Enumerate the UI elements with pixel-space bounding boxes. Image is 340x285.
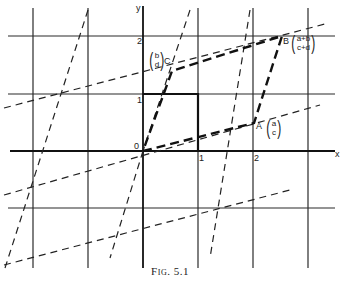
- vector-b: (a+bc+d): [290, 33, 317, 53]
- grid-lines: [8, 8, 335, 268]
- y-tick-1: 1: [137, 96, 142, 105]
- vector-a: (ac): [265, 118, 283, 138]
- vector-b-bottom: c+d: [297, 43, 311, 52]
- x-tick-2: 2: [254, 154, 259, 163]
- y-axis-label: y: [136, 4, 141, 13]
- figure-caption: Fig. 5.1: [0, 265, 340, 277]
- x-tick-1: 1: [199, 154, 204, 163]
- point-a-label: A: [256, 122, 262, 131]
- x-axis-label: x: [335, 150, 340, 159]
- vector-b-top: a+b: [297, 34, 311, 43]
- caption-prefix: Fig.: [151, 265, 170, 277]
- vector-c-top: b: [155, 51, 159, 60]
- caption-number: 5.1: [174, 265, 189, 277]
- vector-c-bottom: d: [155, 60, 159, 69]
- point-c-label: C: [164, 57, 171, 66]
- vector-a-bottom: c: [272, 128, 276, 137]
- point-b-label: B: [283, 37, 289, 46]
- vector-a-top: a: [272, 119, 276, 128]
- origin-label: 0: [134, 142, 139, 151]
- transformed-grid-lines: [4, 10, 325, 268]
- y-tick-2: 2: [137, 37, 142, 46]
